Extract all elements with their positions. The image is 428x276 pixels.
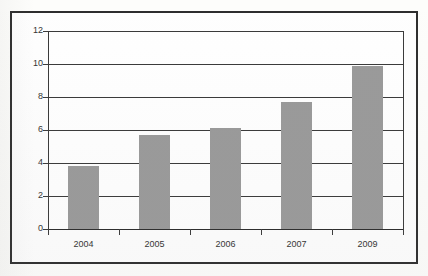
y-axis-tick-labels: 024681012 (11, 0, 43, 276)
gridline (48, 31, 403, 32)
x-tick-mark (119, 229, 120, 235)
bar (68, 166, 99, 229)
bar (281, 102, 312, 229)
x-tick-label: 2004 (73, 239, 93, 249)
bar (210, 128, 241, 229)
x-tick-label: 2006 (215, 239, 235, 249)
x-tick-label: 2007 (286, 239, 306, 249)
y-tick-mark (43, 196, 48, 197)
y-tick-label: 0 (17, 224, 43, 233)
y-axis-line (48, 31, 49, 230)
y-tick-label: 6 (17, 125, 43, 134)
y-tick-mark (43, 130, 48, 131)
x-tick-mark (261, 229, 262, 235)
bar (139, 135, 170, 229)
y-tick-label: 10 (17, 59, 43, 68)
y-tick-label: 8 (17, 92, 43, 101)
x-tick-mark (48, 229, 49, 235)
x-tick-mark (332, 229, 333, 235)
gridline (48, 97, 403, 98)
y-tick-label: 4 (17, 158, 43, 167)
x-axis-line (48, 229, 404, 230)
x-tick-mark (403, 229, 404, 235)
plot-right-edge (403, 31, 404, 230)
gridline (48, 64, 403, 65)
y-tick-label: 2 (17, 191, 43, 200)
bar-chart-figure: 024681012 20042005200620072009 (0, 0, 428, 276)
x-tick-label: 2005 (144, 239, 164, 249)
y-tick-label: 12 (17, 26, 43, 35)
y-tick-mark (43, 163, 48, 164)
x-tick-mark (190, 229, 191, 235)
y-tick-mark (43, 97, 48, 98)
y-tick-mark (43, 31, 48, 32)
x-tick-label: 2009 (357, 239, 377, 249)
bar (352, 66, 383, 229)
y-tick-mark (43, 64, 48, 65)
